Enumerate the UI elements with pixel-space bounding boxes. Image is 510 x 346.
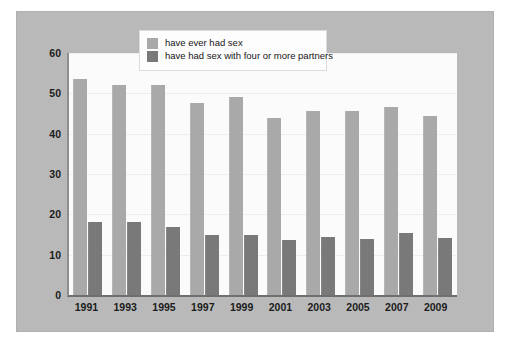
bar-dark-1995 [166, 227, 180, 295]
bar-dark-2001 [282, 240, 296, 295]
legend-item: have had sex with four or more partners [147, 51, 319, 62]
y-axis: 0102030405060 [27, 53, 61, 295]
bar-light-1993 [112, 85, 126, 295]
bar-light-1995 [151, 85, 165, 295]
bar-dark-1993 [127, 222, 141, 295]
legend-item: have ever had sex [147, 38, 319, 49]
bar-light-1999 [229, 97, 243, 295]
y-axis-tick-label: 50 [33, 88, 61, 99]
chart-frame: 0102030405060 19911993199519971999200120… [17, 12, 493, 331]
y-axis-tick-label: 20 [33, 209, 61, 220]
legend-item-label: have ever had sex [165, 38, 243, 48]
chart-legend: have ever had sex have had sex with four… [139, 30, 327, 71]
bar-series-container [69, 53, 457, 295]
legend-item-label: have had sex with four or more partners [165, 51, 333, 61]
bar-dark-1997 [205, 235, 219, 295]
plot-area [67, 53, 457, 297]
x-axis-tick-label: 1997 [183, 302, 223, 313]
y-axis-tick-label: 30 [33, 169, 61, 180]
x-axis-tick-label: 2001 [260, 302, 300, 313]
x-axis-tick-label: 1991 [66, 302, 106, 313]
bar-light-2009 [423, 116, 437, 295]
bar-dark-1991 [88, 222, 102, 295]
bar-light-1997 [190, 103, 204, 295]
bar-light-1991 [73, 79, 87, 295]
chart-figure: 0102030405060 19911993199519971999200120… [0, 0, 510, 346]
bar-dark-1999 [244, 235, 258, 295]
x-axis-tick-label: 2003 [299, 302, 339, 313]
x-axis-tick-label: 2009 [416, 302, 456, 313]
y-axis-tick-label: 60 [33, 48, 61, 59]
y-axis-tick-label: 10 [33, 250, 61, 261]
x-axis-tick-label: 1999 [222, 302, 262, 313]
bar-dark-2003 [321, 237, 335, 295]
bar-light-2007 [384, 107, 398, 295]
x-axis-tick-label: 2007 [377, 302, 417, 313]
x-axis-tick-label: 1993 [105, 302, 145, 313]
y-axis-tick-label: 0 [33, 290, 61, 301]
y-axis-tick-label: 40 [33, 129, 61, 140]
bar-dark-2005 [360, 239, 374, 295]
bar-dark-2007 [399, 233, 413, 295]
x-axis-tick-label: 1995 [144, 302, 184, 313]
legend-swatch-icon [147, 38, 158, 49]
bar-light-2003 [306, 111, 320, 295]
bar-light-2005 [345, 111, 359, 295]
legend-swatch-icon [147, 51, 158, 62]
x-axis-tick-label: 2005 [338, 302, 378, 313]
bar-dark-2009 [438, 238, 452, 295]
bar-light-2001 [267, 118, 281, 295]
